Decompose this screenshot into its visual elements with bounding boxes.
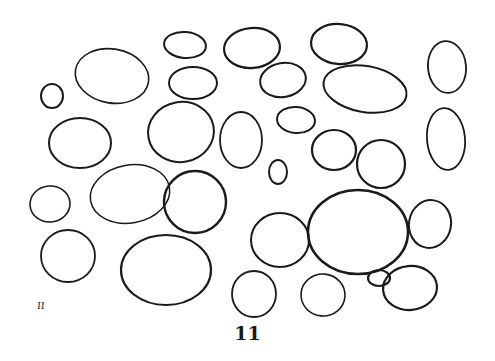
cell-outline xyxy=(251,213,309,267)
cell-outline xyxy=(405,197,455,252)
cell-outline xyxy=(121,235,211,305)
cell-outline xyxy=(320,59,411,119)
cell-outline xyxy=(29,184,72,223)
cell-outline xyxy=(163,30,207,60)
cell-outline xyxy=(232,271,276,317)
cell-outline xyxy=(308,190,408,274)
cell-outline xyxy=(276,105,316,134)
corner-mark: ıı xyxy=(37,298,45,312)
figure-caption: 11 xyxy=(0,322,495,344)
cell-outline xyxy=(71,43,153,109)
cell-outline xyxy=(41,84,63,108)
cell-outline xyxy=(426,39,468,94)
cell-outline xyxy=(49,118,111,168)
cell-outline xyxy=(164,171,226,233)
cell-outline xyxy=(220,112,262,168)
cell-outline xyxy=(143,97,218,168)
cell-outline xyxy=(41,230,95,282)
cell-outline xyxy=(86,158,175,229)
cell-outline xyxy=(312,130,356,170)
cell-outline xyxy=(309,22,368,67)
cell-diagram xyxy=(0,0,495,361)
cell-outline xyxy=(357,140,405,188)
cell-outline xyxy=(269,160,287,184)
cell-outline xyxy=(299,272,346,318)
cell-outline xyxy=(169,67,217,99)
cell-outline xyxy=(424,106,467,171)
cell-outline xyxy=(381,264,439,313)
cell-outline xyxy=(222,26,281,71)
